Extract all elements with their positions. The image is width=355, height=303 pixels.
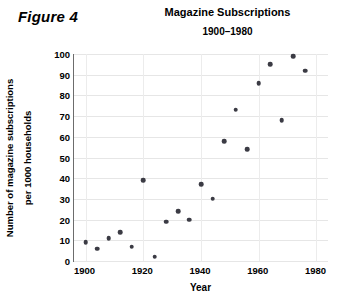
y-tick-label: 60 <box>40 131 70 142</box>
x-tick-label: 1920 <box>132 265 153 276</box>
y-tick-label: 50 <box>40 152 70 163</box>
figure-label: Figure 4 <box>18 8 78 25</box>
y-axis-title: Number of magazine subscriptions per 100… <box>0 50 36 265</box>
gridline-vertical <box>86 54 87 261</box>
data-point <box>291 54 296 59</box>
y-tick-label: 100 <box>40 49 70 60</box>
data-point <box>245 147 250 152</box>
y-tick-label: 90 <box>40 69 70 80</box>
chart-title: Magazine Subscriptions <box>120 6 335 18</box>
data-point <box>268 62 273 67</box>
y-tick-label: 20 <box>40 214 70 225</box>
x-axis-tick-labels: 19001920194019601980 <box>73 265 328 281</box>
data-point <box>280 118 285 123</box>
y-axis-title-line-1: Number of magazine subscriptions <box>4 78 15 236</box>
x-tick-label: 1960 <box>247 265 268 276</box>
data-point <box>129 244 134 249</box>
data-point <box>222 139 227 144</box>
x-tick-label: 1940 <box>189 265 210 276</box>
data-point <box>83 240 88 245</box>
data-point <box>199 182 204 187</box>
data-point <box>106 236 111 241</box>
data-point <box>233 108 238 113</box>
data-point <box>153 255 158 260</box>
gridline-vertical <box>316 54 317 261</box>
y-tick-label: 0 <box>40 256 70 267</box>
data-point <box>303 68 308 73</box>
y-tick-label: 10 <box>40 235 70 246</box>
y-tick-label: 30 <box>40 193 70 204</box>
x-axis-title: Year <box>73 282 328 293</box>
data-point <box>256 81 261 86</box>
chart-subtitle: 1900–1980 <box>120 26 335 37</box>
gridline-vertical <box>201 54 202 261</box>
plot-area <box>73 54 328 262</box>
y-axis-title-line-2: per 1000 households <box>22 110 33 205</box>
y-axis-tick-labels: 0102030405060708090100 <box>40 54 70 262</box>
x-tick-label: 1980 <box>305 265 326 276</box>
data-point <box>210 197 215 202</box>
gridline-vertical <box>143 54 144 261</box>
y-tick-label: 80 <box>40 90 70 101</box>
y-tick-label: 70 <box>40 111 70 122</box>
data-point <box>164 219 169 224</box>
x-tick-label: 1900 <box>74 265 95 276</box>
data-point <box>176 209 181 214</box>
data-point <box>187 217 192 222</box>
gridline-horizontal <box>74 261 328 262</box>
data-point <box>95 246 100 251</box>
y-tick-label: 40 <box>40 173 70 184</box>
data-point <box>141 178 146 183</box>
data-point <box>118 230 123 235</box>
